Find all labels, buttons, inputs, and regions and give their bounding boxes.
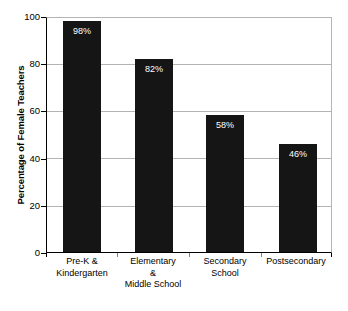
y-tick-label-0: 0 bbox=[18, 248, 40, 258]
x-label-line: Postsecondary bbox=[260, 256, 332, 268]
bar-pre-k-kindergarten[interactable]: 98% bbox=[63, 21, 101, 252]
x-label-line: Middle School bbox=[117, 279, 189, 291]
y-tick-label-100: 100 bbox=[18, 12, 40, 22]
x-label-elementary-middle-school: Elementary & Middle School bbox=[117, 256, 189, 291]
bar-elementary-middle-school[interactable]: 82% bbox=[135, 59, 173, 252]
x-label-postsecondary: Postsecondary bbox=[260, 256, 332, 268]
x-label-line: School bbox=[189, 268, 261, 280]
x-label-line: & bbox=[117, 268, 189, 280]
bar-postsecondary[interactable]: 46% bbox=[279, 144, 317, 252]
x-label-line: Pre-K & bbox=[46, 256, 118, 268]
x-label-line: Elementary bbox=[117, 256, 189, 268]
y-tick-label-40: 40 bbox=[18, 154, 40, 164]
x-label-line: Kindergarten bbox=[46, 268, 118, 280]
bar-value-label: 98% bbox=[63, 26, 101, 36]
bar-secondary-school[interactable]: 58% bbox=[206, 115, 244, 252]
x-axis-category-labels: Pre-K & Kindergarten Elementary & Middle… bbox=[46, 256, 332, 308]
bar-value-label: 46% bbox=[279, 149, 317, 159]
bar-chart: Percentage of Female Teachers 100 80 60 … bbox=[0, 0, 348, 311]
bar-value-label: 58% bbox=[206, 120, 244, 130]
x-label-secondary-school: Secondary School bbox=[189, 256, 261, 279]
y-axis-tick-labels: 100 80 60 40 20 0 bbox=[18, 0, 40, 311]
bar-value-label: 82% bbox=[135, 64, 173, 74]
y-tick-label-80: 80 bbox=[18, 59, 40, 69]
x-label-pre-k-kindergarten: Pre-K & Kindergarten bbox=[46, 256, 118, 279]
y-tick-label-20: 20 bbox=[18, 201, 40, 211]
x-label-line: Secondary bbox=[189, 256, 261, 268]
y-tick-label-60: 60 bbox=[18, 106, 40, 116]
plot-area: 98% 82% 58% 46% bbox=[46, 17, 332, 253]
